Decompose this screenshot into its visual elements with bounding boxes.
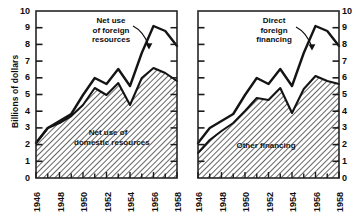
left-x-label-1954: 1954: [126, 192, 136, 212]
left-x-label-1952: 1952: [103, 192, 113, 212]
right-x-label-1950: 1950: [241, 192, 251, 212]
right-y-label-0: 0: [342, 173, 355, 183]
right-y-label-8: 8: [342, 39, 355, 49]
left-x-label-1958: 1958: [173, 192, 183, 212]
right-upper-series-annotation: Direct foreign financing: [252, 16, 296, 45]
right-x-label-1956: 1956: [312, 192, 322, 212]
left-y-label-6: 6: [14, 72, 30, 82]
right-lower-series-annotation: Other financing: [230, 141, 302, 151]
right-x-label-1958: 1958: [335, 192, 345, 212]
right-y-label-5: 5: [342, 89, 355, 99]
left-x-label-1946: 1946: [32, 192, 42, 212]
left-x-label-1950: 1950: [79, 192, 89, 212]
right-x-label-1952: 1952: [265, 192, 275, 212]
left-y-label-1: 1: [14, 156, 30, 166]
left-y-label-10: 10: [14, 6, 30, 16]
right-x-label-1954: 1954: [288, 192, 298, 212]
right-y-label-3: 3: [342, 122, 355, 132]
right-x-label-1948: 1948: [218, 192, 228, 212]
figure-root: Billions of dollars 10 9 8 7 6 5 4 3 2 1…: [0, 0, 355, 217]
left-y-label-2: 2: [14, 139, 30, 149]
right-lower-area-other-financing: [198, 76, 339, 178]
right-y-label-6: 6: [342, 72, 355, 82]
left-x-label-1948: 1948: [56, 192, 66, 212]
chart-canvas: [0, 0, 355, 217]
right-y-label-1: 1: [342, 156, 355, 166]
left-y-label-0: 0: [14, 173, 30, 183]
right-y-label-4: 4: [342, 106, 355, 116]
left-y-label-4: 4: [14, 106, 30, 116]
right-x-label-1946: 1946: [194, 192, 204, 212]
left-y-label-8: 8: [14, 39, 30, 49]
right-y-label-2: 2: [342, 139, 355, 149]
right-y-label-9: 9: [342, 22, 355, 32]
right-y-label-10: 10: [342, 6, 355, 16]
right-y-label-7: 7: [342, 56, 355, 66]
left-y-label-9: 9: [14, 22, 30, 32]
left-x-label-1956: 1956: [150, 192, 160, 212]
left-upper-series-annotation: Net use of foreign resources: [85, 16, 137, 45]
left-y-label-5: 5: [14, 89, 30, 99]
left-y-label-7: 7: [14, 56, 30, 66]
left-lower-series-annotation: Net use of domestic resources: [74, 128, 142, 147]
left-y-label-3: 3: [14, 122, 30, 132]
